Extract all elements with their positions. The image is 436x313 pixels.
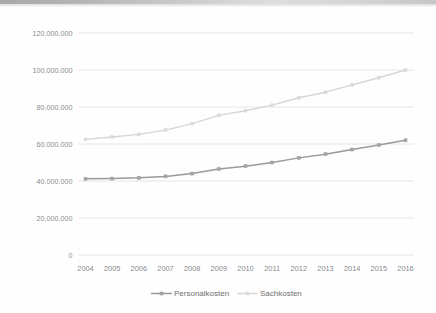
data-point-marker bbox=[191, 172, 194, 175]
y-tick-label: 0 bbox=[69, 251, 73, 260]
x-tick-label: 2016 bbox=[397, 264, 413, 273]
legend-label-personalkosten: Personalkosten bbox=[174, 289, 229, 298]
data-point-marker bbox=[244, 165, 247, 168]
data-point-marker bbox=[164, 175, 167, 178]
y-tick-label: 40.000.000 bbox=[37, 177, 73, 186]
legend-swatch-marker bbox=[160, 292, 163, 295]
y-tick-label: 20.000.000 bbox=[37, 214, 73, 223]
data-point-marker bbox=[297, 96, 300, 99]
y-tick-label: 120.000.000 bbox=[33, 29, 73, 38]
chart-container: 020.000.00040.000.00060.000.00080.000.00… bbox=[0, 0, 436, 313]
data-point-marker bbox=[137, 176, 140, 179]
y-tick-label: 80.000.000 bbox=[37, 103, 73, 112]
chart-legend: PersonalkostenSachkosten bbox=[151, 289, 302, 298]
x-tick-label: 2006 bbox=[131, 264, 147, 273]
x-tick-label: 2012 bbox=[291, 264, 307, 273]
data-point-marker bbox=[111, 136, 114, 139]
data-point-marker bbox=[351, 148, 354, 151]
x-tick-label: 2015 bbox=[371, 264, 387, 273]
data-point-marker bbox=[404, 139, 407, 142]
series-line bbox=[86, 70, 406, 139]
y-tick-label: 60.000.000 bbox=[37, 140, 73, 149]
data-point-marker bbox=[217, 114, 220, 117]
data-point-marker bbox=[271, 104, 274, 107]
series-personalkosten bbox=[84, 139, 407, 180]
x-tick-label: 2014 bbox=[344, 264, 360, 273]
x-tick-label: 2008 bbox=[184, 264, 200, 273]
data-point-marker bbox=[297, 156, 300, 159]
data-point-marker bbox=[377, 143, 380, 146]
data-point-marker bbox=[217, 167, 220, 170]
data-point-marker bbox=[351, 83, 354, 86]
line-chart: 020.000.00040.000.00060.000.00080.000.00… bbox=[0, 0, 436, 313]
y-axis-tick-labels: 020.000.00040.000.00060.000.00080.000.00… bbox=[33, 29, 73, 260]
y-tick-label: 100.000.000 bbox=[33, 66, 73, 75]
data-point-marker bbox=[164, 129, 167, 132]
x-tick-label: 2007 bbox=[157, 264, 173, 273]
x-axis-tick-labels: 2004200520062007200820092010201120122013… bbox=[77, 264, 413, 273]
data-point-marker bbox=[377, 76, 380, 79]
data-point-marker bbox=[324, 153, 327, 156]
series-line bbox=[86, 140, 406, 178]
data-point-marker bbox=[191, 122, 194, 125]
data-point-marker bbox=[84, 177, 87, 180]
plot-area: 020.000.00040.000.00060.000.00080.000.00… bbox=[0, 0, 436, 313]
x-tick-label: 2004 bbox=[77, 264, 93, 273]
x-tick-label: 2011 bbox=[264, 264, 280, 273]
legend-label-sachkosten: Sachkosten bbox=[260, 289, 302, 298]
data-point-marker bbox=[84, 138, 87, 141]
data-point-marker bbox=[324, 91, 327, 94]
gridlines bbox=[79, 33, 415, 255]
data-point-marker bbox=[244, 109, 247, 112]
legend-swatch-marker bbox=[246, 292, 249, 295]
series-sachkosten bbox=[84, 69, 407, 141]
data-point-marker bbox=[111, 177, 114, 180]
data-point-marker bbox=[271, 161, 274, 164]
data-point-marker bbox=[137, 133, 140, 136]
x-tick-label: 2009 bbox=[211, 264, 227, 273]
data-point-marker bbox=[404, 69, 407, 72]
x-tick-label: 2010 bbox=[237, 264, 253, 273]
x-tick-label: 2013 bbox=[317, 264, 333, 273]
x-tick-label: 2005 bbox=[104, 264, 120, 273]
